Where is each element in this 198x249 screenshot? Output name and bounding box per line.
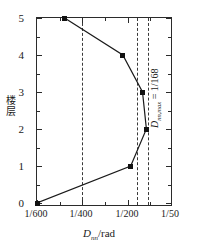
- data-point-story-3: [140, 90, 145, 95]
- drift-polyline: [37, 18, 146, 203]
- x-axis-title-subscript: nn: [91, 234, 98, 242]
- x-tick-label-1-400: 1/400: [61, 209, 101, 219]
- y-tick-label-1: 1: [10, 161, 24, 172]
- x-axis-title: Dnn/rad: [0, 228, 198, 242]
- x-tick-label-1-200: 1/200: [107, 209, 147, 219]
- x-axis-title-symbol: D: [83, 227, 91, 239]
- y-axis-title: 楼 层: [4, 96, 18, 117]
- y-tick-label-2: 2: [10, 124, 24, 135]
- x-tick-label-1-50: 1/50: [150, 209, 190, 219]
- data-point-story-5: [62, 16, 67, 21]
- annotation-subscript: nn,max: [155, 102, 162, 121]
- y-tick-label-5: 5: [10, 13, 24, 24]
- data-point-story-4: [120, 53, 125, 58]
- x-tick-label-1-600: 1/600: [16, 209, 56, 219]
- annotation-value: = 1/168: [149, 68, 160, 101]
- y-axis-title-char-2: 层: [4, 107, 18, 118]
- chart-figure: 5 4 3 2 1 0 楼 层: [0, 0, 198, 249]
- x-axis-title-unit: /rad: [98, 227, 115, 239]
- y-tick-label-0: 0: [10, 198, 24, 209]
- x-tick-1-50: [171, 200, 172, 205]
- data-point-story-1: [128, 164, 133, 169]
- max-drift-annotation: Dnn,max = 1/168: [150, 68, 163, 128]
- y-tick-label-4: 4: [10, 50, 24, 61]
- data-point-story-0: [35, 201, 40, 206]
- annotation-symbol: D: [149, 121, 160, 128]
- y-axis-title-char-1: 楼: [4, 96, 18, 107]
